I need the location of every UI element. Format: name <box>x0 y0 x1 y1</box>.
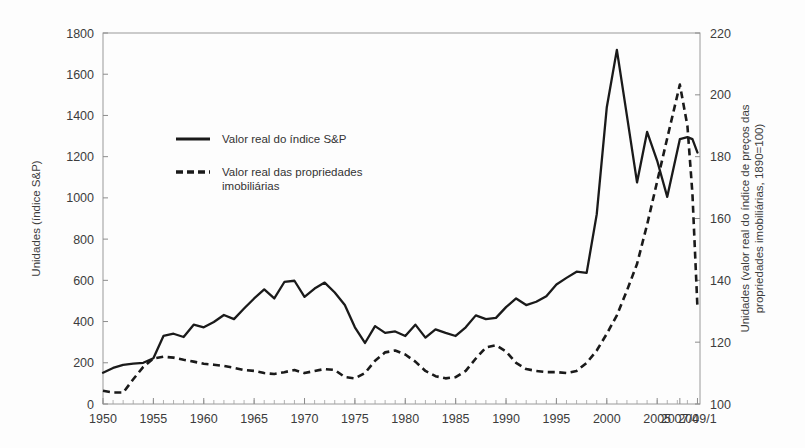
x-axis-tick-label: 2009/1 <box>678 412 716 426</box>
x-axis-tick-label: 1965 <box>240 412 268 426</box>
y-axis-tick-label: 200 <box>73 356 94 370</box>
y-axis-tick-label: 400 <box>73 315 94 329</box>
series-line-1 <box>103 50 697 373</box>
legend-label-housing-line2: imobiliárias <box>222 180 280 192</box>
y2-axis-tick-label: 160 <box>710 212 731 226</box>
left-axis-title: Unidades (índice S&P) <box>30 160 42 277</box>
x-axis-tick-label: 1980 <box>391 412 419 426</box>
legend-label-housing-line1: Valor real das propriedades <box>222 166 363 178</box>
x-axis-tick-label: 1975 <box>341 412 369 426</box>
y2-axis-tick-label: 200 <box>710 88 731 102</box>
line-chart-svg: 0200400600800100012001400160018001001201… <box>0 0 805 448</box>
chart-legend: Valor real do índice S&PValor real das p… <box>176 133 363 192</box>
y2-axis-tick-label: 140 <box>710 274 731 288</box>
x-axis-tick-label: 1985 <box>442 412 470 426</box>
axis-titles: Unidades (índice S&P)Unidades (valor rea… <box>30 104 765 332</box>
legend-label-sp: Valor real do índice S&P <box>222 133 347 145</box>
y-axis-tick-label: 0 <box>87 398 94 412</box>
y-axis-tick-label: 800 <box>73 233 94 247</box>
y-axis-tick-label: 1600 <box>66 68 94 82</box>
right-axis-title-line1: Unidades (valor real do índice de preços… <box>739 104 751 332</box>
x-axis-tick-label: 1950 <box>89 412 117 426</box>
y2-axis-tick-label: 100 <box>710 398 731 412</box>
y2-axis-tick-label: 220 <box>710 27 731 41</box>
right-axis-title-line2: propriedades imobiliárias, 1890=100) <box>753 124 765 314</box>
axis-tick-labels: 0200400600800100012001400160018001001201… <box>66 27 731 427</box>
x-axis-tick-label: 1990 <box>492 412 520 426</box>
y2-axis-tick-label: 180 <box>710 150 731 164</box>
data-series <box>103 50 697 393</box>
y-axis-tick-label: 1200 <box>66 150 94 164</box>
series-line-2 <box>103 85 697 393</box>
y-axis-tick-label: 600 <box>73 274 94 288</box>
y-axis-tick-label: 1000 <box>66 191 94 205</box>
x-axis-tick-label: 1955 <box>139 412 167 426</box>
chart-figure: 0200400600800100012001400160018001001201… <box>0 0 805 448</box>
x-axis-tick-label: 1960 <box>190 412 218 426</box>
x-axis-tick-label: 1995 <box>543 412 571 426</box>
y-axis-tick-label: 1400 <box>66 109 94 123</box>
x-axis-tick-label: 2000 <box>593 412 621 426</box>
x-axis-tick-label: 1970 <box>291 412 319 426</box>
y2-axis-tick-label: 120 <box>710 336 731 350</box>
y-axis-tick-label: 1800 <box>66 27 94 41</box>
